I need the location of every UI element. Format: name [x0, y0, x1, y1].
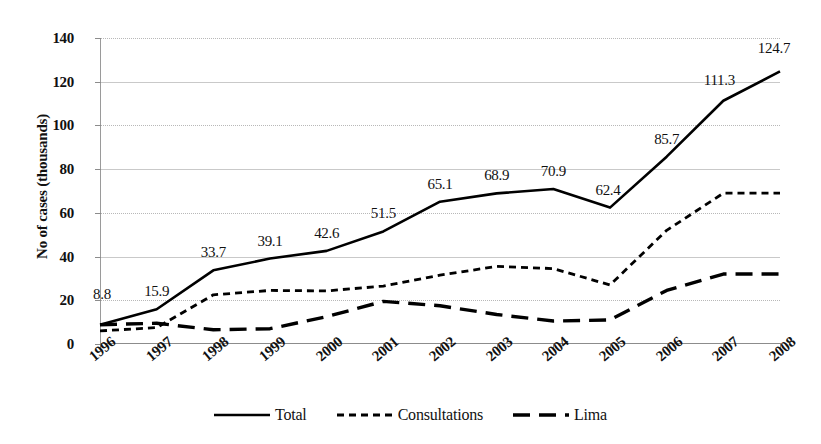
legend-swatch-dotted	[337, 409, 393, 421]
data-point-label: 70.9	[541, 163, 566, 180]
data-point-label: 51.5	[371, 205, 396, 222]
y-axis-title: No of cases (thousands)	[34, 67, 51, 307]
line-chart: No of cases (thousands) 0204060801001201…	[0, 0, 821, 444]
y-tick-label: 60	[20, 204, 74, 221]
data-point-label: 65.1	[427, 176, 452, 193]
data-point-label: 62.4	[595, 182, 620, 199]
data-point-label: 124.7	[758, 40, 790, 57]
data-point-label: 111.3	[704, 72, 735, 89]
legend-swatch-dashed	[513, 409, 569, 421]
chart-legend: TotalConsultationsLima	[0, 406, 821, 424]
y-tick-label: 20	[20, 292, 74, 309]
y-tick-label: 40	[20, 248, 74, 265]
y-tick-label: 80	[20, 161, 74, 178]
data-point-label: 15.9	[144, 283, 169, 300]
legend-item-total[interactable]: Total	[214, 406, 307, 424]
y-tick-label: 100	[20, 117, 74, 134]
y-tick-label: 0	[20, 336, 74, 353]
y-tick-label: 140	[20, 30, 74, 47]
data-point-label: 39.1	[257, 233, 282, 250]
legend-label: Consultations	[398, 406, 483, 424]
legend-item-lima[interactable]: Lima	[513, 406, 607, 424]
data-point-label: 8.8	[93, 286, 111, 303]
legend-swatch-solid	[214, 409, 270, 421]
y-tick-label: 120	[20, 73, 74, 90]
data-point-label: 85.7	[654, 131, 679, 148]
plot-area: 0204060801001201408.815.933.739.142.651.…	[100, 38, 780, 344]
legend-label: Total	[275, 406, 307, 424]
series-line-consultations	[100, 193, 780, 331]
legend-label: Lima	[574, 406, 607, 424]
data-point-label: 42.6	[314, 225, 339, 242]
data-point-label: 68.9	[484, 167, 509, 184]
series-line-total	[100, 71, 780, 324]
legend-item-consultations[interactable]: Consultations	[337, 406, 483, 424]
data-point-label: 33.7	[201, 244, 226, 261]
